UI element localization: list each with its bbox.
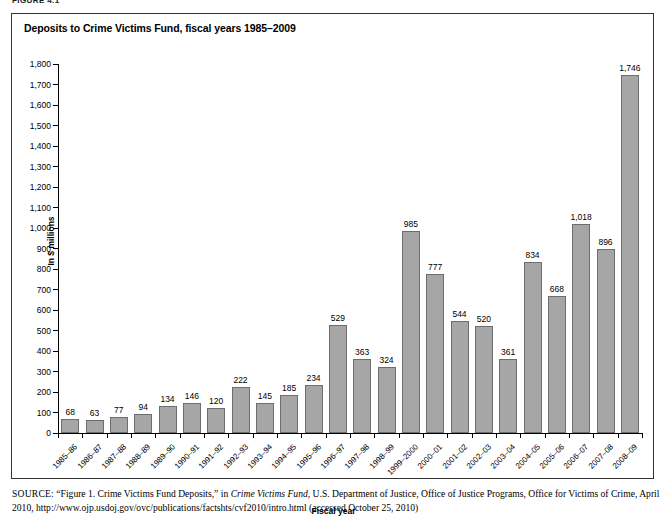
y-axis-tick-mark [53, 64, 58, 65]
bar-value-label: 520 [464, 314, 504, 324]
bar-value-label: 668 [537, 284, 577, 294]
y-axis-tick-mark [53, 105, 58, 106]
bar [621, 75, 639, 433]
bar-value-label: 234 [294, 373, 334, 383]
y-axis-tick-mark [53, 330, 58, 331]
x-axis-tick-mark [472, 433, 473, 438]
x-axis-tick-mark [545, 433, 546, 438]
x-axis-tick-mark [277, 433, 278, 438]
y-axis-tick-label: 800 [12, 264, 58, 274]
bar-value-label: 834 [513, 250, 553, 260]
x-axis-tick-mark [520, 433, 521, 438]
bar [86, 420, 104, 433]
bar-value-label: 120 [196, 396, 236, 406]
bar-value-label: 529 [318, 313, 358, 323]
bar [280, 395, 298, 433]
y-axis-tick-label: 900 [12, 244, 58, 254]
x-axis-tick-mark [423, 433, 424, 438]
x-axis-tick-mark [228, 433, 229, 438]
x-axis-tick-mark [253, 433, 254, 438]
y-axis-tick-mark [53, 248, 58, 249]
bar [134, 414, 152, 433]
x-axis-tick-mark [350, 433, 351, 438]
y-axis-tick-mark [53, 207, 58, 208]
y-axis-tick-label: 400 [12, 346, 58, 356]
source-text-part1: “Figure 1. Crime Victims Fund Deposits,”… [54, 488, 231, 499]
y-axis-tick-label: 1,700 [12, 80, 58, 90]
bar [183, 403, 201, 433]
x-axis-tick-mark [642, 433, 643, 438]
bar [548, 296, 566, 433]
bar [597, 249, 615, 433]
y-axis-tick-mark [53, 269, 58, 270]
bar [378, 367, 396, 433]
y-axis-tick-mark [53, 146, 58, 147]
x-axis-tick-mark [204, 433, 205, 438]
y-axis-tick-label: 500 [12, 326, 58, 336]
y-axis-tick-label: 1,000 [12, 223, 58, 233]
x-axis-tick-mark [131, 433, 132, 438]
bar [329, 325, 347, 433]
bar-value-label: 1,746 [610, 63, 650, 73]
x-axis-tick-mark [301, 433, 302, 438]
y-axis-tick-mark [53, 371, 58, 372]
y-axis-tick-label: 1,400 [12, 141, 58, 151]
bar-value-label: 222 [221, 375, 261, 385]
bar [451, 321, 469, 433]
y-axis-tick-mark [53, 351, 58, 352]
bar [256, 403, 274, 433]
source-note: SOURCE: “Figure 1. Crime Victims Fund De… [12, 487, 660, 514]
y-axis-tick-mark [53, 187, 58, 188]
bar-value-label: 896 [586, 237, 626, 247]
bar-value-label: 361 [488, 347, 528, 357]
bar [110, 417, 128, 433]
bar-value-label: 777 [415, 262, 455, 272]
y-axis-tick-label: 700 [12, 285, 58, 295]
y-axis-tick-label: 300 [12, 367, 58, 377]
x-axis-tick-mark [593, 433, 594, 438]
bar [475, 326, 493, 433]
bar-value-label: 324 [367, 355, 407, 365]
y-axis-tick-label: 1,200 [12, 182, 58, 192]
y-axis-tick-mark [53, 392, 58, 393]
y-axis-tick-mark [53, 125, 58, 126]
y-axis-tick-label: 200 [12, 387, 58, 397]
bar [61, 419, 79, 433]
y-axis-line [58, 64, 59, 433]
x-axis-tick-mark [58, 433, 59, 438]
bar [426, 274, 444, 433]
x-axis-tick-label: 2008–09 [590, 442, 639, 491]
y-axis-tick-label: 0 [12, 428, 58, 438]
figure-number-label: FIGURE 4.1 [12, 0, 60, 6]
source-kicker: SOURCE: [12, 488, 54, 499]
x-axis-tick-mark [82, 433, 83, 438]
y-axis-tick-label: 1,800 [12, 59, 58, 69]
x-axis-tick-mark [496, 433, 497, 438]
source-publication-title: Crime Victims Fund [231, 488, 308, 499]
x-axis-tick-mark [399, 433, 400, 438]
figure-frame: Deposits to Crime Victims Fund, fiscal y… [11, 13, 654, 479]
x-axis-tick-mark [374, 433, 375, 438]
x-axis-tick-mark [326, 433, 327, 438]
x-axis-tick-mark [618, 433, 619, 438]
bar [159, 406, 177, 433]
x-axis-tick-mark [155, 433, 156, 438]
y-axis-tick-mark [53, 289, 58, 290]
bar [572, 224, 590, 433]
y-axis-tick-label: 1,300 [12, 162, 58, 172]
y-axis-tick-label: 1,100 [12, 203, 58, 213]
bar-value-label: 185 [269, 383, 309, 393]
bar [353, 359, 371, 433]
y-axis-tick-mark [53, 228, 58, 229]
bar [499, 359, 517, 433]
y-axis-tick-mark [53, 84, 58, 85]
y-axis-tick-label: 600 [12, 305, 58, 315]
x-axis-tick-mark [569, 433, 570, 438]
y-axis-tick-mark [53, 166, 58, 167]
x-axis-tick-mark [180, 433, 181, 438]
bar-value-label: 1,018 [561, 212, 601, 222]
y-axis-tick-mark [53, 310, 58, 311]
bar [207, 408, 225, 433]
bar-value-label: 985 [391, 219, 431, 229]
bar [305, 385, 323, 433]
